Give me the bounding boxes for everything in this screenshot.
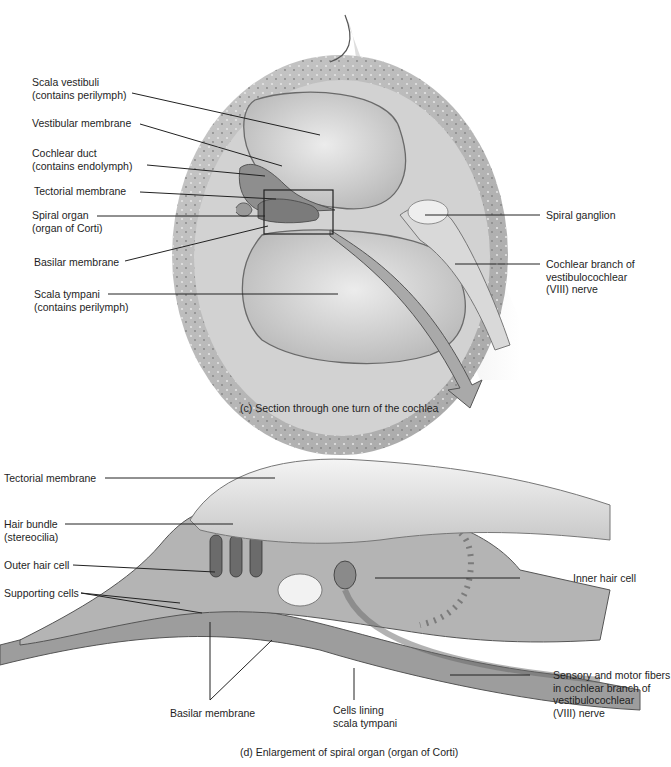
label-scala-vestibuli: Scala vestibuli (contains perilymph) — [32, 76, 127, 101]
label-basilar-membrane-d: Basilar membrane — [170, 707, 255, 720]
panel-d-art — [0, 459, 640, 710]
label-scala-tympani: Scala tympani (contains perilymph) — [34, 288, 129, 313]
label-cochlear-branch: Cochlear branch of vestibulocochlear (VI… — [546, 258, 635, 296]
label-tectorial-membrane-d: Tectorial membrane — [4, 472, 96, 485]
caption-panel-c: (c) Section through one turn of the coch… — [240, 402, 438, 414]
label-hair-bundle: Hair bundle (stereocilia) — [4, 518, 58, 543]
label-vestibular-membrane: Vestibular membrane — [32, 117, 131, 130]
label-cells-lining: Cells lining scala tympani — [333, 704, 397, 729]
label-inner-hair-cell: Inner hair cell — [573, 572, 636, 585]
label-tectorial-membrane-c: Tectorial membrane — [34, 185, 126, 198]
label-spiral-organ: Spiral organ (organ of Corti) — [32, 209, 103, 234]
label-outer-hair-cell: Outer hair cell — [4, 559, 69, 572]
cochlea-illustration — [0, 0, 671, 767]
label-sensory-motor-fibers: Sensory and motor fibers in cochlear bra… — [553, 669, 670, 719]
label-supporting-cells: Supporting cells — [4, 587, 79, 600]
label-cochlear-duct: Cochlear duct (contains endolymph) — [32, 147, 132, 172]
caption-panel-d: (d) Enlargement of spiral organ (organ o… — [240, 746, 458, 758]
panel-c-art — [172, 15, 520, 455]
label-basilar-membrane-c: Basilar membrane — [34, 256, 119, 269]
label-spiral-ganglion: Spiral ganglion — [546, 209, 615, 222]
